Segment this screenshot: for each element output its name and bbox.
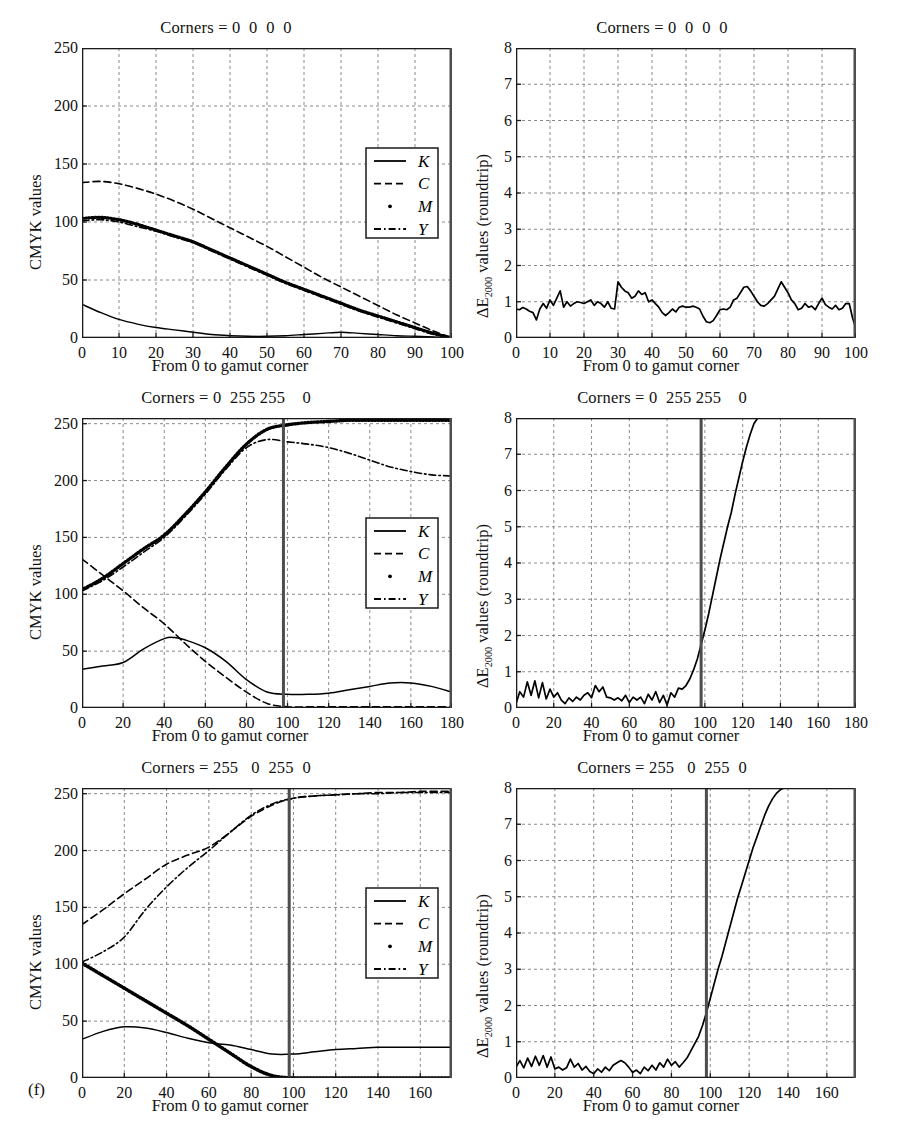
panel-cmyk-b: Corners = 0 255 255 0 CMYK values KCMY F… (0, 388, 452, 753)
y-tick-label: 4 (472, 184, 512, 202)
x-tick-label: 120 (324, 1084, 348, 1102)
svg-text:M: M (417, 937, 433, 956)
plot-area (516, 788, 856, 1078)
x-tick-label: 10 (542, 344, 558, 362)
y-tick-label: 3 (472, 220, 512, 238)
x-axis-label: From 0 to gamut corner (60, 726, 400, 746)
y-tick-label: 250 (38, 39, 78, 57)
x-tick-label: 140 (358, 714, 382, 732)
x-tick-label: 80 (370, 344, 386, 362)
panel-title: Corners = 0 0 0 0 (0, 18, 452, 38)
x-tick-label: 60 (197, 714, 213, 732)
x-tick-label: 160 (408, 1084, 432, 1102)
panel-title: Corners = 255 0 255 0 (471, 758, 853, 778)
svg-text:Y: Y (418, 220, 429, 239)
svg-text:K: K (417, 892, 431, 911)
y-tick-label: 100 (38, 585, 78, 603)
y-tick-label: 7 (472, 445, 512, 463)
x-tick-label: 100 (698, 1084, 722, 1102)
y-tick-label: 0 (38, 1069, 78, 1087)
panel-de-a: Corners = 0 0 0 0 ΔE2000 values (roundtr… (451, 18, 903, 383)
y-tick-label: 200 (38, 97, 78, 115)
y-tick-label: 6 (472, 112, 512, 130)
y-tick-label: 50 (38, 1012, 78, 1030)
figure-root: Corners = 0 0 0 0 CMYK values KCMY From … (0, 0, 903, 1130)
x-tick-label: 80 (243, 1084, 259, 1102)
x-tick-label: 80 (663, 1084, 679, 1102)
x-tick-label: 90 (814, 344, 830, 362)
y-tick-label: 0 (38, 699, 78, 717)
x-tick-label: 60 (201, 1084, 217, 1102)
plot-area: KCMY (82, 418, 452, 708)
y-tick-label: 0 (38, 329, 78, 347)
y-tick-label: 50 (38, 271, 78, 289)
y-tick-label: 6 (472, 852, 512, 870)
x-tick-label: 20 (547, 1084, 563, 1102)
x-tick-label: 0 (78, 1084, 86, 1102)
panel-cmyk-a: Corners = 0 0 0 0 CMYK values KCMY From … (0, 18, 452, 383)
y-tick-label: 0 (472, 329, 512, 347)
x-tick-label: 20 (148, 344, 164, 362)
page-bottom-artifact (0, 1116, 903, 1130)
y-tick-label: 50 (38, 642, 78, 660)
y-tick-label: 7 (472, 75, 512, 93)
x-tick-label: 20 (115, 714, 131, 732)
x-tick-label: 160 (399, 714, 423, 732)
y-tick-label: 250 (38, 415, 78, 433)
x-tick-label: 80 (659, 714, 675, 732)
svg-text:M: M (417, 567, 433, 586)
svg-text:C: C (418, 914, 430, 933)
x-tick-label: 50 (259, 344, 275, 362)
y-tick-label: 4 (472, 924, 512, 942)
y-tick-label: 1 (472, 293, 512, 311)
panel-de-b: Corners = 0 255 255 0 ΔE2000 values (rou… (451, 388, 903, 753)
x-tick-label: 0 (512, 714, 520, 732)
x-tick-label: 70 (333, 344, 349, 362)
x-tick-label: 120 (731, 714, 755, 732)
y-tick-label: 7 (472, 815, 512, 833)
x-tick-label: 0 (78, 714, 86, 732)
x-tick-label: 10 (111, 344, 127, 362)
x-tick-label: 140 (366, 1084, 390, 1102)
y-tick-label: 150 (38, 898, 78, 916)
x-tick-label: 0 (512, 1084, 520, 1102)
svg-text:M: M (417, 197, 433, 216)
y-tick-label: 0 (472, 1069, 512, 1087)
x-tick-label: 60 (621, 714, 637, 732)
panel-title: Corners = 0 255 255 0 (471, 388, 853, 408)
x-tick-label: 30 (185, 344, 201, 362)
y-tick-label: 150 (38, 155, 78, 173)
y-tick-label: 2 (472, 257, 512, 275)
y-tick-label: 200 (38, 472, 78, 490)
y-tick-label: 6 (472, 482, 512, 500)
panel-de-c: Corners = 255 0 255 0 ΔE2000 values (rou… (451, 758, 903, 1123)
x-tick-label: 20 (546, 714, 562, 732)
panel-cmyk-c: Corners = 255 0 255 0 CMYK values KCMY (… (0, 758, 452, 1123)
x-tick-label: 0 (512, 344, 520, 362)
plot-area (516, 48, 856, 338)
svg-text:Y: Y (418, 590, 429, 609)
x-tick-label: 100 (844, 344, 868, 362)
x-tick-label: 100 (276, 714, 300, 732)
y-tick-label: 8 (472, 39, 512, 57)
x-tick-label: 20 (576, 344, 592, 362)
x-tick-label: 40 (584, 714, 600, 732)
x-tick-label: 140 (776, 1084, 800, 1102)
svg-text:C: C (418, 544, 430, 563)
x-tick-label: 60 (625, 1084, 641, 1102)
x-tick-label: 40 (586, 1084, 602, 1102)
plot-area: KCMY (82, 788, 452, 1078)
x-tick-label: 60 (296, 344, 312, 362)
y-tick-label: 100 (38, 955, 78, 973)
x-tick-label: 40 (222, 344, 238, 362)
x-tick-label: 180 (844, 714, 868, 732)
x-tick-label: 20 (116, 1084, 132, 1102)
x-tick-label: 140 (768, 714, 792, 732)
y-tick-label: 250 (38, 785, 78, 803)
x-tick-label: 80 (780, 344, 796, 362)
y-tick-label: 2 (472, 627, 512, 645)
y-tick-label: 100 (38, 213, 78, 231)
x-tick-label: 40 (159, 1084, 175, 1102)
x-tick-label: 40 (156, 714, 172, 732)
y-tick-label: 5 (472, 888, 512, 906)
